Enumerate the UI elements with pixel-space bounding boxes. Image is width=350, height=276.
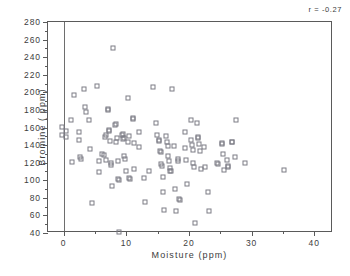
data-point bbox=[282, 167, 287, 172]
x-tick-label: 20 bbox=[183, 238, 194, 248]
y-tick-mark bbox=[43, 75, 48, 76]
data-point bbox=[131, 116, 136, 121]
data-point bbox=[166, 153, 171, 158]
data-point bbox=[77, 137, 82, 142]
data-point bbox=[184, 158, 189, 163]
correlation-annotation: r = -0.27 bbox=[308, 5, 342, 14]
y-tick-label: 280 bbox=[24, 17, 41, 27]
data-point bbox=[166, 158, 171, 163]
data-point bbox=[126, 140, 131, 145]
data-point bbox=[190, 143, 195, 148]
data-point bbox=[126, 134, 131, 139]
data-point bbox=[82, 86, 87, 91]
y-tick-label: 160 bbox=[24, 123, 41, 133]
data-point bbox=[171, 143, 176, 148]
x-tick-mark-minor bbox=[95, 231, 96, 234]
data-point bbox=[106, 107, 111, 112]
x-tick-mark-minor bbox=[283, 231, 284, 234]
data-point bbox=[224, 158, 229, 163]
data-point bbox=[131, 141, 136, 146]
data-point bbox=[111, 46, 116, 51]
data-point bbox=[72, 92, 77, 97]
y-tick-mark bbox=[43, 233, 48, 234]
scatter-plot-figure: Bromine ( ppm) 4060801001201401601802002… bbox=[0, 0, 350, 276]
data-point bbox=[206, 209, 211, 214]
data-point bbox=[168, 169, 173, 174]
y-tick-mark bbox=[43, 163, 48, 164]
y-tick-mark bbox=[43, 180, 48, 181]
data-point bbox=[107, 128, 112, 133]
data-point bbox=[90, 201, 95, 206]
data-point bbox=[195, 121, 200, 126]
y-tick-label: 220 bbox=[24, 70, 41, 80]
x-tick-mark bbox=[252, 231, 253, 236]
data-point bbox=[201, 144, 206, 149]
data-point bbox=[173, 209, 178, 214]
data-point bbox=[232, 155, 237, 160]
data-point bbox=[132, 166, 137, 171]
data-point bbox=[196, 136, 201, 141]
y-tick-mark-minor bbox=[45, 119, 48, 120]
y-tick-mark-minor bbox=[45, 224, 48, 225]
data-point bbox=[198, 149, 203, 154]
data-point bbox=[189, 137, 194, 142]
data-point bbox=[233, 117, 238, 122]
x-tick-mark bbox=[64, 231, 65, 236]
data-point bbox=[143, 200, 148, 205]
y-tick-label: 140 bbox=[24, 140, 41, 150]
data-point bbox=[109, 163, 114, 168]
x-axis-title: Moisture (ppm) bbox=[47, 250, 332, 260]
data-point bbox=[64, 135, 69, 140]
data-point bbox=[230, 140, 235, 145]
x-tick-label: 40 bbox=[309, 238, 320, 248]
data-point bbox=[165, 143, 170, 148]
data-point bbox=[220, 141, 225, 146]
data-point bbox=[69, 118, 74, 123]
data-point bbox=[161, 189, 166, 194]
data-point bbox=[123, 157, 128, 162]
data-point bbox=[226, 165, 231, 170]
data-point bbox=[115, 158, 120, 163]
data-point bbox=[205, 189, 210, 194]
x-tick-mark bbox=[126, 231, 127, 236]
data-point bbox=[76, 129, 81, 134]
y-tick-label: 100 bbox=[24, 175, 41, 185]
y-tick-mark bbox=[43, 128, 48, 129]
x-tick-label: 0 bbox=[61, 238, 67, 248]
data-point bbox=[146, 168, 151, 173]
y-tick-label: 180 bbox=[24, 105, 41, 115]
y-tick-mark-minor bbox=[45, 207, 48, 208]
y-tick-label: 240 bbox=[24, 52, 41, 62]
data-point bbox=[153, 121, 158, 126]
data-point bbox=[123, 169, 128, 174]
y-tick-mark-minor bbox=[45, 136, 48, 137]
data-point bbox=[157, 137, 162, 142]
x-tick-mark-minor bbox=[158, 231, 159, 234]
x-tick-label: 10 bbox=[121, 238, 132, 248]
data-point bbox=[182, 129, 187, 134]
data-point bbox=[192, 221, 197, 226]
data-point bbox=[177, 197, 182, 202]
y-tick-mark bbox=[43, 215, 48, 216]
y-tick-mark-minor bbox=[45, 84, 48, 85]
data-point bbox=[83, 109, 88, 114]
data-point bbox=[160, 164, 165, 169]
data-point bbox=[125, 95, 130, 100]
data-point bbox=[97, 170, 102, 175]
data-point bbox=[96, 158, 101, 163]
data-point bbox=[158, 150, 163, 155]
y-tick-mark bbox=[43, 40, 48, 41]
data-point bbox=[176, 158, 181, 163]
y-tick-label: 200 bbox=[24, 87, 41, 97]
data-point bbox=[142, 175, 147, 180]
data-point bbox=[113, 121, 118, 126]
y-tick-label: 60 bbox=[30, 210, 41, 220]
x-tick-label: 30 bbox=[246, 238, 257, 248]
data-point bbox=[183, 145, 188, 150]
plot-area: 406080100120140160180200220240260280 010… bbox=[47, 21, 332, 232]
data-point bbox=[190, 148, 195, 153]
data-point bbox=[173, 187, 178, 192]
y-tick-label: 260 bbox=[24, 35, 41, 45]
y-tick-mark-minor bbox=[45, 66, 48, 67]
y-tick-mark-minor bbox=[45, 154, 48, 155]
